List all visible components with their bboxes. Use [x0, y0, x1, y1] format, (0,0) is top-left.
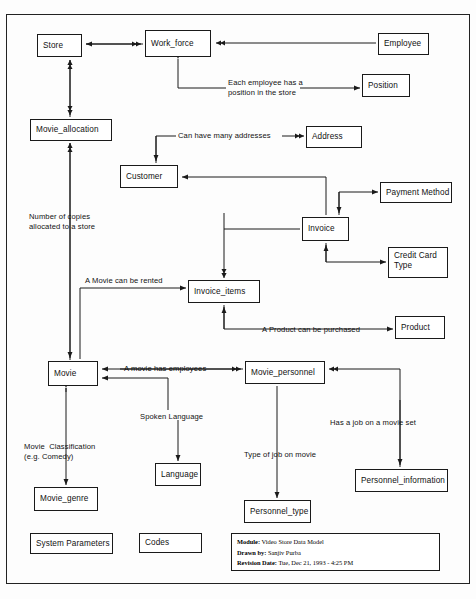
module-value: Video Store Data Model	[262, 538, 324, 545]
entity-box-customer[interactable]: Customer	[120, 165, 178, 188]
relationship-label-spoken-language: Spoken Language	[140, 412, 203, 422]
relationship-label-movie-classification: Movie Classification (e.g. Comedy)	[24, 442, 95, 461]
entity-label: Invoice	[308, 224, 335, 234]
entity-box-credit_card_type[interactable]: Credit Card Type	[388, 247, 448, 278]
diagram-canvas: StoreWork_forceEmployeePositionMovie_all…	[0, 0, 476, 599]
entity-label: Invoice_items	[194, 287, 245, 297]
drawn-by-value: Sanjiv Purba	[268, 549, 301, 556]
revision-value: Tue, Dec 21, 1993 - 4:25 PM	[278, 559, 353, 566]
relationship-label-type-of-job: Type of job on movie	[244, 450, 316, 460]
entity-label: Personnel_information	[361, 476, 445, 486]
entity-box-employee[interactable]: Employee	[378, 33, 429, 55]
entity-box-invoice_items[interactable]: Invoice_items	[188, 280, 260, 303]
entity-box-payment_method[interactable]: Payment Method	[380, 182, 452, 203]
entity-box-position[interactable]: Position	[362, 74, 410, 97]
title-block-revision-row: Revision Date: Tue, Dec 21, 1993 - 4:25 …	[237, 558, 439, 569]
entity-label: Language	[161, 470, 198, 480]
relationship-label-movie-rented: A Movie can be rented	[85, 276, 163, 286]
entity-label: Payment Method	[386, 188, 449, 198]
relationship-label-employee-position: Each employee has a position in the stor…	[228, 78, 303, 97]
entity-box-personnel_information[interactable]: Personnel_information	[355, 469, 448, 492]
entity-box-language[interactable]: Language	[155, 463, 201, 486]
entity-box-movie_allocation[interactable]: Movie_allocation	[30, 119, 112, 141]
title-block-drawnby-row: Drawn by: Sanjiv Purba	[237, 548, 439, 559]
entity-box-address[interactable]: Address	[306, 126, 362, 148]
title-block: Module: Video Store Data Model Drawn by:…	[231, 533, 440, 571]
entity-box-system_parameters[interactable]: System Parameters	[30, 533, 113, 554]
entity-label: Movie_genre	[40, 494, 88, 504]
entity-label: Movie_personnel	[251, 368, 315, 378]
relationship-label-job-on-movie-set: Has a job on a movie set	[330, 418, 416, 428]
entity-box-movie_personnel[interactable]: Movie_personnel	[245, 361, 325, 384]
entity-box-movie[interactable]: Movie	[48, 361, 98, 386]
entity-box-invoice[interactable]: Invoice	[302, 217, 349, 241]
entity-box-store[interactable]: Store	[37, 34, 82, 57]
relationship-label-many-addresses: Can have many addresses	[178, 131, 271, 141]
entity-label: System Parameters	[36, 539, 110, 549]
entity-box-work_force[interactable]: Work_force	[145, 30, 211, 57]
entity-label: Address	[312, 132, 343, 142]
relationship-label-product-purchased: A Product can be purchased	[262, 325, 360, 335]
entity-box-codes[interactable]: Codes	[139, 533, 202, 553]
relationship-label-movie-has-employees: A movie has employees	[124, 364, 206, 374]
entity-label: Product	[401, 323, 430, 333]
entity-label: Employee	[384, 39, 421, 49]
entity-box-product[interactable]: Product	[395, 316, 445, 339]
entity-label: Position	[368, 81, 398, 91]
entity-label: Store	[43, 41, 63, 51]
entity-label: Movie	[54, 369, 76, 379]
title-block-module-row: Module: Video Store Data Model	[237, 537, 439, 548]
entity-label: Personnel_type	[250, 507, 308, 517]
entity-box-personnel_type[interactable]: Personnel_type	[244, 500, 311, 523]
relationship-label-copies-allocated: Number of copies allocated to a store	[29, 212, 95, 231]
entity-label: Work_force	[151, 39, 194, 49]
entity-label: Credit Card Type	[394, 251, 437, 271]
entity-label: Codes	[145, 538, 169, 548]
entity-box-movie_genre[interactable]: Movie_genre	[34, 487, 98, 511]
revision-key: Revision Date:	[237, 559, 277, 566]
drawn-by-key: Drawn by:	[237, 549, 266, 556]
module-key: Module:	[237, 538, 260, 545]
entity-label: Customer	[126, 172, 162, 182]
entity-label: Movie_allocation	[36, 125, 99, 135]
